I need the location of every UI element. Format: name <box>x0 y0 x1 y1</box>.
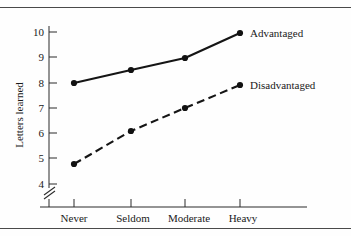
y-tick-label-5: 5 <box>39 152 45 164</box>
disadvantaged-point-moderate <box>182 105 188 111</box>
disadvantaged-line <box>74 85 240 164</box>
advantaged-point-never <box>71 80 77 86</box>
series-advantaged: Advantaged <box>71 27 304 86</box>
disadvantaged-point-never <box>71 161 77 167</box>
advantaged-point-heavy <box>237 30 243 36</box>
x-tick-label-heavy: Heavy <box>229 212 258 224</box>
x-tick-label-never: Never <box>61 212 88 224</box>
y-tick-labels: 10 9 8 7 6 5 4 <box>33 26 45 190</box>
disadvantaged-point-heavy <box>237 82 243 88</box>
advantaged-point-moderate <box>182 55 188 61</box>
disadvantaged-point-seldom <box>128 128 134 134</box>
figure-container: 10 9 8 7 6 5 4 Letters learned Never Sel… <box>0 0 351 236</box>
series-disadvantaged: Disadvantaged <box>71 79 316 167</box>
y-tick-label-10: 10 <box>33 26 45 38</box>
y-axis-ticks <box>49 32 57 184</box>
advantaged-point-seldom <box>128 67 134 73</box>
y-tick-label-9: 9 <box>39 51 45 63</box>
line-chart: 10 9 8 7 6 5 4 Letters learned Never Sel… <box>0 0 351 236</box>
series-label-disadvantaged: Disadvantaged <box>250 79 316 91</box>
x-tick-label-moderate: Moderate <box>168 212 210 224</box>
series-label-advantaged: Advantaged <box>250 27 304 39</box>
advantaged-line <box>74 33 240 83</box>
y-tick-label-7: 7 <box>39 102 45 114</box>
y-axis-break-mark <box>44 187 55 199</box>
y-tick-label-4: 4 <box>39 178 45 190</box>
y-axis-title: Letters learned <box>13 82 25 148</box>
y-tick-label-6: 6 <box>39 127 45 139</box>
x-tick-labels: Never Seldom Moderate Heavy <box>61 212 258 224</box>
x-axis <box>40 199 307 207</box>
x-tick-label-seldom: Seldom <box>116 212 150 224</box>
y-tick-label-8: 8 <box>39 77 45 89</box>
